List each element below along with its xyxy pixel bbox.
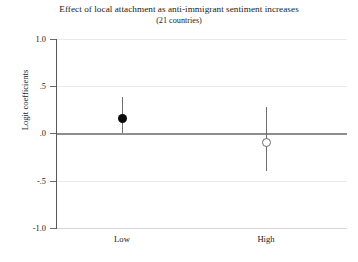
y-tick-mark-1	[50, 39, 56, 40]
chart-figure: Effect of local attachment as anti-immig…	[0, 0, 358, 262]
y-axis-title: Logit coefficients	[20, 35, 30, 165]
y-tick-mark-5	[50, 228, 56, 229]
gridline-neg0_5	[57, 181, 347, 182]
datapoint-marker-low	[118, 114, 127, 123]
gridline-0_5	[57, 86, 347, 87]
gridline-1_0	[57, 39, 347, 40]
y-tick-label-5: -1.0	[16, 224, 46, 233]
y-tick-mark-2	[50, 86, 56, 87]
y-tick-label-3: .0	[16, 129, 46, 138]
plot-area	[57, 39, 347, 228]
y-tick-label-4: -.5	[16, 177, 46, 186]
chart-title-block: Effect of local attachment as anti-immig…	[0, 4, 358, 25]
zero-reference-line	[57, 133, 347, 135]
datapoint-marker-high	[262, 138, 271, 147]
y-tick-mark-4	[50, 181, 56, 182]
x-tick-label-low: Low	[87, 234, 157, 244]
x-axis-line	[57, 228, 347, 229]
chart-subtitle: (21 countries)	[0, 16, 358, 25]
y-tick-label-2: .5	[16, 82, 46, 91]
chart-title: Effect of local attachment as anti-immig…	[0, 4, 358, 15]
y-tick-label-1: 1.0	[16, 35, 46, 44]
x-tick-label-high: High	[231, 234, 301, 244]
y-tick-mark-3	[50, 133, 56, 134]
